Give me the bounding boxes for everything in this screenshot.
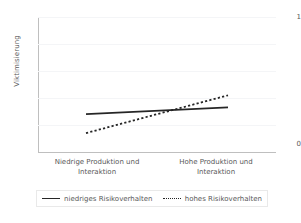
x-axis-line xyxy=(38,152,276,153)
chart-legend: niedriges Risikoverhalten hohes Risikove… xyxy=(36,190,268,207)
x-axis-category-label-1-line2: Interaktion xyxy=(157,167,275,177)
dotted-line-swatch-icon xyxy=(163,198,181,199)
y-axis-tick-label-bottom: 0 xyxy=(279,140,301,148)
series-line-0 xyxy=(86,107,228,114)
series-line-1 xyxy=(86,95,228,133)
solid-line-swatch-icon xyxy=(42,198,60,199)
plot-area xyxy=(38,17,276,152)
x-axis-category-label-1-line1: Hohe Produktion und xyxy=(157,157,275,167)
legend-item-0-label: niedriges Risikoverhalten xyxy=(64,195,152,203)
legend-item-1: hohes Risikoverhalten xyxy=(163,195,262,203)
x-axis-category-label-0: Niedrige Produktion und Interaktion xyxy=(38,157,156,177)
legend-item-1-label: hohes Risikoverhalten xyxy=(185,195,262,203)
y-axis-title: Viktimisierung xyxy=(13,21,21,101)
legend-item-0: niedriges Risikoverhalten xyxy=(42,195,152,203)
series-lines xyxy=(38,17,276,152)
y-axis-tick-label-top: 1 xyxy=(279,13,301,21)
x-axis-category-label-0-line2: Interaktion xyxy=(38,167,156,177)
interaction-line-chart: Viktimisierung 1 0 Niedrige Produktion u… xyxy=(0,0,301,223)
x-axis-category-label-0-line1: Niedrige Produktion und xyxy=(38,157,156,167)
x-axis-category-label-1: Hohe Produktion und Interaktion xyxy=(157,157,275,177)
